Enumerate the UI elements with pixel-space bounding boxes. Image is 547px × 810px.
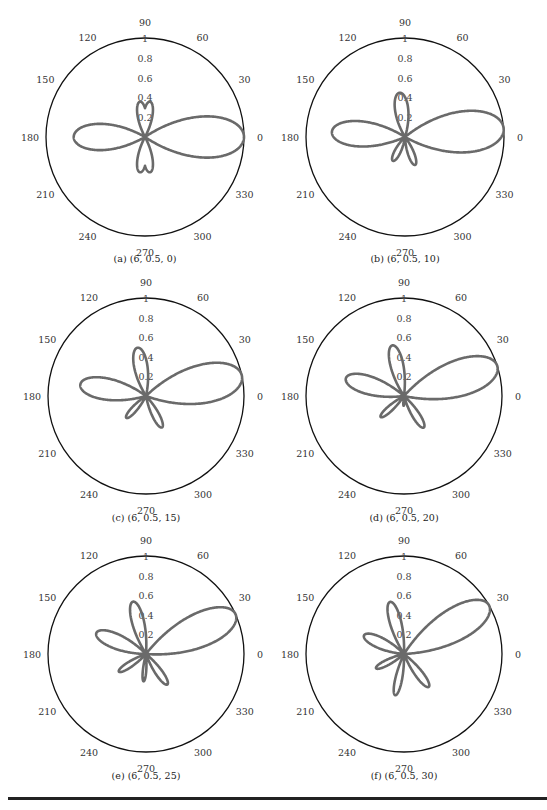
angle-tick-label: 30 — [497, 592, 509, 603]
subfigure-caption: (e) (6, 0.5, 25) — [46, 770, 246, 781]
polar-plot-b: 03060901201501802102402703003300.20.40.6… — [270, 0, 540, 262]
radiation-pattern-curve — [364, 600, 490, 695]
angle-tick-label: 180 — [23, 391, 41, 402]
angle-tick-label: 330 — [496, 189, 514, 200]
angle-tick-label: 330 — [236, 189, 254, 200]
angle-tick-label: 120 — [338, 292, 356, 303]
polar-plot-e: 03060901201501802102402703003300.20.40.6… — [0, 520, 270, 782]
radial-tick-label: 0.8 — [138, 571, 153, 582]
angle-tick-label: 30 — [497, 334, 509, 345]
angle-tick-label: 30 — [239, 74, 251, 85]
angle-tick-label: 60 — [456, 32, 468, 43]
angle-tick-label: 180 — [281, 391, 299, 402]
radial-tick-label: 0.2 — [138, 371, 153, 382]
radiation-pattern-curve — [346, 345, 498, 427]
polar-plot-f: 03060901201501802102402703003300.20.40.6… — [270, 520, 540, 782]
angle-tick-label: 150 — [38, 334, 56, 345]
radial-tick-label: 0.6 — [138, 332, 153, 343]
angle-tick-label: 240 — [80, 489, 98, 500]
angle-tick-label: 90 — [399, 17, 411, 28]
polar-chart-svg: 03060901201501802102402703003300.20.40.6… — [0, 520, 270, 782]
angle-tick-label: 0 — [515, 391, 521, 402]
subfigure-caption: (f) (6, 0.5, 30) — [304, 770, 504, 781]
angle-tick-label: 120 — [80, 550, 98, 561]
angle-tick-label: 60 — [197, 292, 209, 303]
angle-tick-label: 330 — [494, 706, 512, 717]
angle-tick-label: 300 — [193, 231, 211, 242]
figure-divider-rule — [8, 797, 547, 800]
polar-chart-svg: 03060901201501802102402703003300.20.40.6… — [0, 0, 270, 262]
radiation-pattern-curve — [74, 102, 244, 173]
angle-tick-label: 120 — [78, 32, 96, 43]
angle-tick-label: 0 — [517, 132, 523, 143]
angle-tick-label: 210 — [296, 189, 314, 200]
radial-tick-label: 1 — [143, 551, 149, 562]
radiation-pattern-curve — [80, 348, 242, 428]
angle-tick-label: 0 — [257, 391, 263, 402]
angle-tick-label: 90 — [139, 17, 151, 28]
radial-tick-label: 0.6 — [396, 590, 411, 601]
angle-tick-label: 180 — [281, 649, 299, 660]
radial-tick-label: 0.2 — [397, 112, 412, 123]
angle-tick-label: 150 — [296, 334, 314, 345]
radial-tick-label: 0.8 — [396, 313, 411, 324]
angle-tick-label: 60 — [196, 32, 208, 43]
angle-tick-label: 60 — [455, 550, 467, 561]
angle-tick-label: 30 — [239, 592, 251, 603]
angle-tick-label: 120 — [338, 32, 356, 43]
angle-tick-label: 90 — [398, 277, 410, 288]
angle-tick-label: 90 — [140, 277, 152, 288]
angle-tick-label: 210 — [38, 448, 56, 459]
radial-tick-label: 1 — [402, 33, 408, 44]
angle-tick-label: 300 — [453, 231, 471, 242]
radial-tick-label: 1 — [401, 293, 407, 304]
angle-tick-label: 240 — [78, 231, 96, 242]
angle-tick-label: 150 — [296, 592, 314, 603]
angle-tick-label: 330 — [236, 706, 254, 717]
radial-tick-label: 0.8 — [138, 313, 153, 324]
angle-tick-label: 210 — [296, 706, 314, 717]
angle-tick-label: 60 — [455, 292, 467, 303]
angle-tick-label: 180 — [21, 132, 39, 143]
radiation-pattern-curve — [332, 93, 504, 165]
angle-tick-label: 150 — [38, 592, 56, 603]
polar-chart-svg: 03060901201501802102402703003300.20.40.6… — [270, 0, 547, 262]
radial-tick-label: 0.8 — [137, 53, 152, 64]
radial-tick-label: 1 — [143, 293, 149, 304]
radial-tick-label: 0.6 — [396, 332, 411, 343]
angle-tick-label: 240 — [338, 747, 356, 758]
angle-tick-label: 30 — [239, 334, 251, 345]
radial-tick-label: 0.8 — [396, 571, 411, 582]
radial-tick-label: 0.8 — [397, 53, 412, 64]
radial-tick-label: 0.6 — [397, 73, 412, 84]
radial-tick-label: 1 — [142, 33, 148, 44]
angle-tick-label: 30 — [499, 74, 511, 85]
angle-tick-label: 240 — [338, 489, 356, 500]
angle-tick-label: 300 — [194, 747, 212, 758]
angle-tick-label: 240 — [80, 747, 98, 758]
angle-tick-label: 240 — [338, 231, 356, 242]
angle-tick-label: 210 — [38, 706, 56, 717]
angle-tick-label: 150 — [36, 74, 54, 85]
polar-plot-a: 03060901201501802102402703003300.20.40.6… — [0, 0, 270, 262]
radial-tick-label: 1 — [401, 551, 407, 562]
angle-tick-label: 300 — [452, 489, 470, 500]
polar-chart-svg: 03060901201501802102402703003300.20.40.6… — [270, 260, 547, 522]
angle-tick-label: 330 — [494, 448, 512, 459]
angle-tick-label: 180 — [281, 132, 299, 143]
angle-tick-label: 120 — [80, 292, 98, 303]
angle-tick-label: 210 — [296, 448, 314, 459]
radiation-pattern-curve — [96, 602, 236, 685]
angle-tick-label: 300 — [452, 747, 470, 758]
angle-tick-label: 330 — [236, 448, 254, 459]
radial-tick-label: 0.6 — [137, 73, 152, 84]
angle-tick-label: 180 — [23, 649, 41, 660]
polar-plot-c: 03060901201501802102402703003300.20.40.6… — [0, 260, 270, 522]
angle-tick-label: 60 — [197, 550, 209, 561]
angle-tick-label: 90 — [398, 535, 410, 546]
radial-tick-label: 0.6 — [138, 590, 153, 601]
polar-chart-svg: 03060901201501802102402703003300.20.40.6… — [0, 260, 270, 522]
angle-tick-label: 210 — [36, 189, 54, 200]
angle-tick-label: 90 — [140, 535, 152, 546]
angle-tick-label: 0 — [515, 649, 521, 660]
